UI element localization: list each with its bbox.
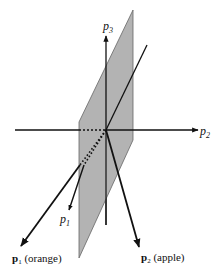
p3-axis-label: p3 [102,19,113,35]
p2-axis-label: p2 [199,124,210,140]
p1-orange-label: p1 (orange) [12,252,62,266]
p2-apple-label: p2 (apple) [141,251,185,265]
vector-space-diagram: p3 p2 p1 p1 (orange) p2 (apple) [0,0,220,278]
p1-axis-label: p1 [59,212,70,228]
